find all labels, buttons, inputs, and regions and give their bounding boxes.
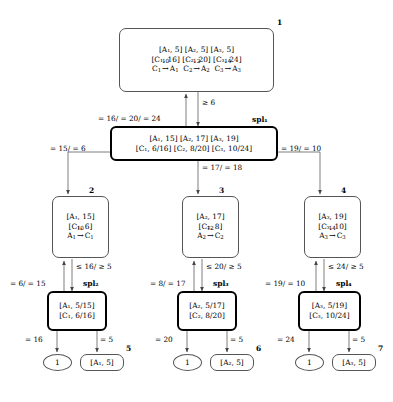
node-spl2[interactable]: [A₁, 5/15] [C₁, 6/16] [47, 291, 107, 331]
node-2-row-1: [A₁, 15] [66, 212, 94, 222]
edge-label-spl2-right: = 5 [100, 335, 113, 344]
node-1-row-1: [A₁, 5] [A₂, 5] [A₃, 5] [159, 45, 234, 55]
cost-c2a2: 12 [193, 59, 200, 65]
node-spl4-row-2: [C₃, 10/24] [309, 311, 349, 321]
node-spl3[interactable]: [A₂, 5/17] [C₂, 8/20] [177, 291, 237, 331]
node-spl1-number: spl₁ [252, 115, 268, 124]
node-4[interactable]: [A₃, 19] [C₃, 10] A314→C3 [304, 196, 361, 258]
cost-a2c2: 12 [207, 226, 214, 232]
edge-label-n3-down: ≤ 20/ ≥ 5 [206, 262, 242, 271]
node-spl2-number: spl₂ [83, 279, 99, 288]
node-2-row-3: A110→C1 [67, 231, 93, 242]
node-spl4-row-1: [A₃, 5/19] [312, 301, 347, 311]
node-3-row-1: [A₂, 17] [196, 212, 224, 222]
node-7-number: 7 [378, 344, 383, 353]
edge-label-root-up: = 16/ = 20/ = 24 [98, 114, 161, 123]
cost-c3a3: 14 [224, 59, 231, 65]
node-1-number: 1 [277, 18, 282, 27]
edge-label-n4-up: = 19/ = 10 [265, 279, 305, 288]
edge-label-spl4-right: = 5 [352, 335, 365, 344]
edge-label-spl4-left: = 24 [277, 335, 295, 344]
node-4-row-1: [A₃, 19] [318, 212, 346, 222]
diagram-canvas: [A₁, 5] [A₂, 5] [A₃, 5] [C₁, 16] [C₂, 20… [0, 0, 393, 402]
leaf-ellipse-2-label: 1 [185, 358, 190, 367]
edge-label-spl3-left: = 20 [155, 335, 173, 344]
node-1[interactable]: [A₁, 5] [A₂, 5] [A₃, 5] [C₁, 16] [C₂, 20… [119, 28, 274, 92]
node-7-row-1: [A₃, 5] [342, 358, 365, 368]
node-spl1-row-2: [C₁, 6/16] [C₂, 8/20] [C₃, 10/24] [136, 144, 252, 154]
node-spl1-row-1: [A₁, 15] [A₂, 17] [A₃, 19] [149, 134, 238, 144]
node-1-row-3: C110→A1 C212→A2 C314→A3 [152, 64, 241, 75]
node-spl1[interactable]: [A₁, 15] [A₂, 17] [A₃, 19] [C₁, 6/16] [C… [110, 126, 278, 161]
edge-label-spl1-left: = 15/ = 6 [50, 144, 86, 153]
node-5[interactable]: [A₁, 5] [80, 354, 124, 371]
node-6-number: 6 [256, 344, 261, 353]
edge-label-spl2-left: = 16 [25, 335, 43, 344]
leaf-ellipse-3-label: 1 [307, 358, 312, 367]
node-2-number: 2 [89, 186, 94, 195]
leaf-ellipse-1-label: 1 [55, 358, 60, 367]
edge-label-root-down: ≥ 6 [202, 98, 215, 107]
node-spl2-row-1: [A₁, 5/15] [59, 301, 94, 311]
cost-a1c1: 10 [77, 226, 84, 232]
node-spl4[interactable]: [A₃, 5/19] [C₃, 10/24] [298, 291, 361, 331]
node-3-number: 3 [219, 186, 224, 195]
node-spl3-row-2: [C₂, 8/20] [189, 311, 225, 321]
node-6-row-1: [A₂, 5] [220, 358, 243, 368]
node-3[interactable]: [A₂, 17] [C₂, 8] A212→C2 [182, 196, 239, 258]
leaf-ellipse-2[interactable]: 1 [173, 354, 202, 371]
node-5-number: 5 [126, 344, 131, 353]
edge-label-n2-up: = 6/ = 15 [10, 279, 46, 288]
node-6[interactable]: [A₂, 5] [210, 354, 254, 371]
leaf-ellipse-3[interactable]: 1 [295, 354, 324, 371]
cost-c1a1: 10 [162, 59, 169, 65]
edge-label-n3-up: = 8/ = 17 [150, 279, 186, 288]
edge-label-n4-down: ≤ 24/ ≥ 5 [328, 262, 364, 271]
cost-a3c3: 14 [329, 226, 336, 232]
node-spl2-row-2: [C₁, 6/16] [59, 311, 95, 321]
node-spl4-number: spl₄ [336, 279, 352, 288]
node-2[interactable]: [A₁, 15] [C₁, 6] A110→C1 [52, 196, 109, 258]
edge-label-spl1-right: = 19/ = 10 [281, 144, 321, 153]
node-3-row-3: A212→C2 [197, 231, 223, 242]
node-4-row-3: A314→C3 [319, 231, 345, 242]
node-spl3-number: spl₃ [213, 279, 229, 288]
node-spl3-row-1: [A₂, 5/17] [189, 301, 224, 311]
edge-label-spl3-right: = 5 [230, 335, 243, 344]
node-7[interactable]: [A₃, 5] [332, 354, 376, 371]
node-5-row-1: [A₁, 5] [90, 358, 113, 368]
leaf-ellipse-1[interactable]: 1 [43, 354, 72, 371]
node-4-number: 4 [341, 186, 346, 195]
edge-label-spl1-mid: = 17/ = 18 [202, 163, 242, 172]
edge-label-n2-down: ≤ 16/ ≥ 5 [76, 262, 112, 271]
